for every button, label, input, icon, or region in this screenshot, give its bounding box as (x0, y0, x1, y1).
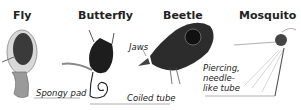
label-jaws: Jaws (129, 42, 148, 52)
panel-title-mosquito: Mosquito (239, 9, 296, 22)
label-piercing-line-1: Piercing, (203, 63, 240, 73)
panel-title-fly: Fly (13, 9, 31, 22)
label-piercing-tube: Piercing, needle- like tube (203, 63, 240, 93)
panel-title-beetle: Beetle (163, 9, 203, 22)
label-piercing-line-2: needle- (203, 73, 240, 83)
label-coiled-tube: Coiled tube (127, 93, 176, 103)
panel-title-butterfly: Butterfly (78, 9, 133, 22)
label-piercing-line-3: like tube (203, 83, 240, 93)
label-spongy-pad: Spongy pad (36, 88, 87, 98)
